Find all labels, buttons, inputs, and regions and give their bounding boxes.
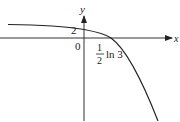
function-graph: y x 2 0 1 2 ln 3 [0,0,180,121]
origin-label: 0 [75,40,81,52]
x-axis-label: x [173,33,179,44]
y-intercept-label: 2 [71,24,77,36]
x-intercept-ln3: ln 3 [106,48,123,60]
function-curve [8,25,158,122]
y-axis-label: y [79,3,85,15]
x-intercept-numerator: 1 [97,42,102,53]
x-intercept-denominator: 2 [97,55,102,66]
